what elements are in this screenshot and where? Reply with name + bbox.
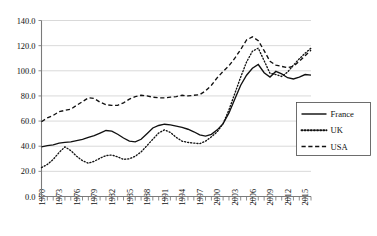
x-tick-label: 2006 bbox=[249, 189, 258, 206]
legend-label-usa: USA bbox=[331, 142, 349, 152]
x-tick-label: 1997 bbox=[196, 189, 205, 206]
x-tick-label: 1982 bbox=[108, 189, 117, 206]
y-tick-label: 100.0 bbox=[17, 67, 36, 76]
x-tick-label: 1979 bbox=[90, 189, 99, 206]
y-tick-label: 20.0 bbox=[21, 167, 36, 176]
series-line-uk bbox=[42, 48, 312, 167]
axis-lines bbox=[42, 21, 312, 197]
x-tick-label: 1985 bbox=[126, 189, 135, 206]
chart-legend: FranceUKUSA bbox=[297, 103, 371, 156]
x-tick-label: 1991 bbox=[161, 189, 170, 206]
series-line-france bbox=[42, 65, 312, 147]
series-line-usa bbox=[42, 37, 312, 122]
x-tick-label: 2015 bbox=[301, 189, 310, 206]
y-tick-label: 40.0 bbox=[21, 142, 36, 151]
x-tick-label: 2009 bbox=[266, 189, 275, 206]
x-tick-label: 2000 bbox=[213, 189, 222, 206]
x-tick-label: 2012 bbox=[284, 189, 293, 206]
legend-label-france: France bbox=[331, 109, 355, 119]
x-tick-label: 1976 bbox=[73, 189, 82, 206]
y-tick-label: 0.0 bbox=[25, 193, 35, 202]
x-tick-label: 2003 bbox=[231, 189, 240, 206]
line-chart: 0.020.040.060.080.0100.0120.0140.0 19701… bbox=[0, 0, 377, 236]
gridlines bbox=[39, 21, 312, 197]
y-tick-label: 140.0 bbox=[17, 17, 36, 26]
y-tick-label: 60.0 bbox=[21, 117, 36, 126]
x-tick-label: 1970 bbox=[38, 189, 47, 206]
y-tick-label: 120.0 bbox=[17, 42, 36, 51]
y-axis-tick-labels: 0.020.040.060.080.0100.0120.0140.0 bbox=[17, 17, 36, 202]
x-tick-label: 1988 bbox=[143, 189, 152, 206]
y-tick-label: 80.0 bbox=[21, 92, 36, 101]
chart-canvas: 0.020.040.060.080.0100.0120.0140.0 19701… bbox=[0, 0, 377, 236]
data-series-group bbox=[42, 37, 312, 168]
legend-label-uk: UK bbox=[331, 125, 344, 135]
x-tick-label: 1973 bbox=[55, 189, 64, 206]
